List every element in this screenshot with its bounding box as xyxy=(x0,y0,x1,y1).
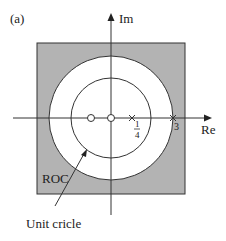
panel-label: (a) xyxy=(10,12,24,25)
zero-marker-icon xyxy=(108,115,115,122)
imag-axis-label: Im xyxy=(119,12,133,25)
unit-circle-annotation: Unit cricle xyxy=(26,217,81,230)
pole-label-three: 3 xyxy=(174,122,179,132)
pole-zero-plot xyxy=(0,0,226,241)
imag-axis-arrow-icon xyxy=(108,13,115,21)
pole-label-numerator: 1 xyxy=(135,120,140,129)
real-axis-label: Re xyxy=(201,123,215,136)
real-axis-arrow-icon xyxy=(204,115,212,122)
zero-marker-icon xyxy=(88,115,95,122)
pole-label-denominator: 4 xyxy=(135,131,140,140)
roc-label: ROC xyxy=(42,172,69,185)
